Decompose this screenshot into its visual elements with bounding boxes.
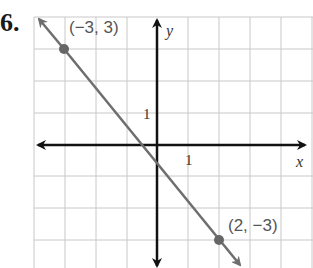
graph-line [39,19,64,49]
coordinate-plane: (−3, 3) (2, −3) y x 1 1 [0,0,313,268]
x-tick-1: 1 [185,152,193,168]
point-neg3-3 [59,44,69,54]
x-axis-label: x [295,153,303,170]
y-tick-1: 1 [143,106,151,122]
point-label-2: (2, −3) [228,216,278,235]
point-label-1: (−3, 3) [69,18,119,37]
point-2-neg3 [214,235,224,245]
y-axis-label: y [164,22,174,40]
